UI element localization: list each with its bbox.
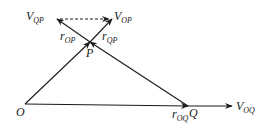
label-r-qp: rQP xyxy=(102,29,117,45)
relative-velocity-diagram: VQP VOP rOP rQP P O rOQ Q VOQ xyxy=(0,0,262,131)
label-v-oq: VOQ xyxy=(236,99,255,115)
vector-r-op xyxy=(25,42,90,104)
label-p: P xyxy=(85,46,94,60)
vector-r-qp xyxy=(90,42,188,106)
vector-r-oq xyxy=(25,104,188,106)
label-r-oq: rOQ xyxy=(172,107,188,123)
label-o: O xyxy=(16,105,25,119)
label-q: Q xyxy=(189,106,198,120)
label-r-op: rOP xyxy=(60,29,75,45)
label-v-qp: VQP xyxy=(26,9,44,25)
label-v-op: VOP xyxy=(114,9,132,25)
